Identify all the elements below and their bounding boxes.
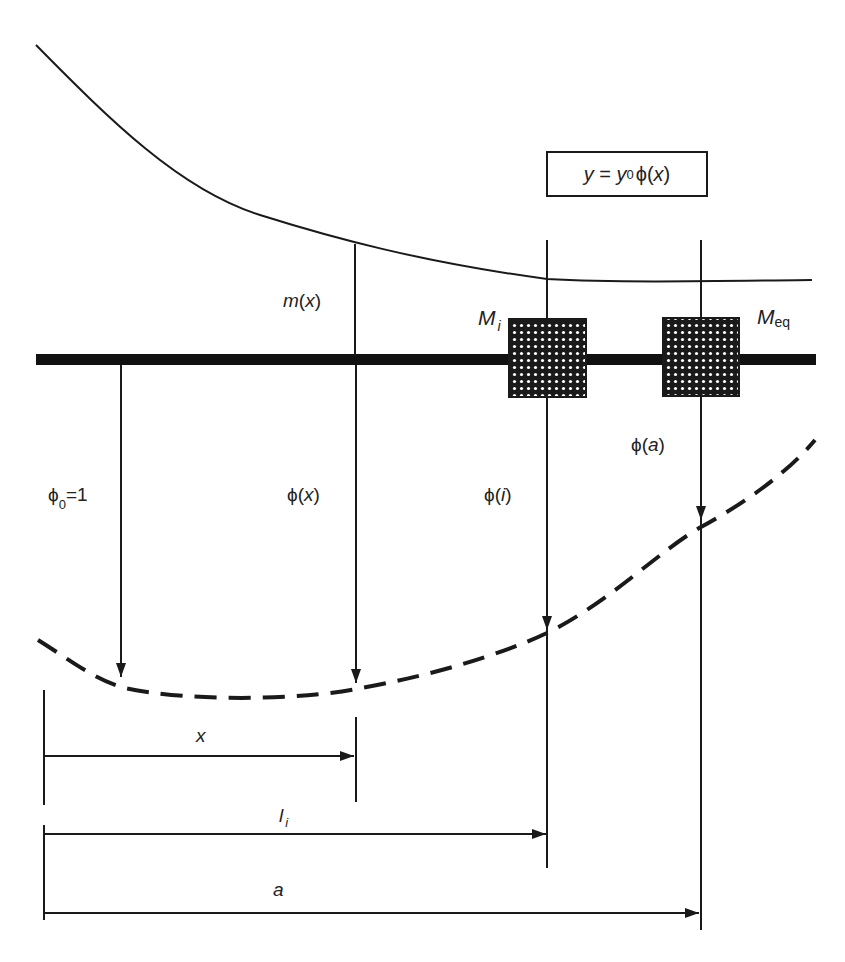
label-dim-li: li: [279, 805, 289, 830]
label-m-x: m(x): [283, 290, 321, 311]
label-phi-x: ϕ(x): [287, 484, 320, 505]
mode-shape-formula: y = y0ϕ(x): [546, 151, 708, 197]
label-mass-i: Mi: [478, 306, 502, 334]
label-mass-eq: Meq: [757, 305, 790, 330]
formula-phi: ϕ: [636, 163, 647, 186]
deflection-curve: [38, 440, 815, 698]
formula-y0-sub: 0: [627, 167, 634, 182]
formula-open: (: [647, 163, 654, 186]
formula-close: ): [664, 163, 671, 186]
vibration-diagram: m(x) Mi Meq ϕ0=1 ϕ(x) ϕ(i) ϕ(a) x li a: [0, 0, 845, 962]
formula-arg: x: [654, 163, 664, 186]
label-phi-i: ϕ(i): [484, 484, 512, 505]
label-phi0: ϕ0=1: [48, 484, 88, 512]
mass-i: [509, 319, 586, 397]
label-dim-x: x: [195, 725, 207, 746]
label-phi-a: ϕ(a): [631, 434, 665, 455]
formula-y0: y: [617, 163, 627, 186]
mass-eq: [663, 318, 739, 396]
formula-eq: =: [594, 163, 617, 186]
formula-lhs: y: [584, 163, 594, 186]
label-dim-a: a: [273, 879, 284, 900]
